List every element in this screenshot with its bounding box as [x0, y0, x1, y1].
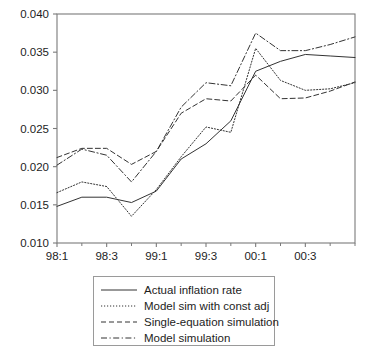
- series-line: [57, 75, 355, 164]
- svg-text:0.030: 0.030: [20, 84, 49, 96]
- plot-frame: [57, 14, 355, 243]
- svg-text:99:1: 99:1: [145, 250, 167, 262]
- legend-item: Model simulation: [94, 330, 274, 346]
- series-line: [57, 48, 355, 216]
- series-line: [57, 33, 355, 182]
- svg-text:0.020: 0.020: [20, 161, 49, 173]
- legend-label-model-sim-with-const-adj: Model sim with const adj: [144, 299, 269, 313]
- svg-text:98:1: 98:1: [46, 250, 68, 262]
- x-axis-tick-labels: 98:198:399:199:300:100:3: [46, 250, 317, 262]
- y-axis-tick-labels: 0.0100.0150.0200.0250.0300.0350.040: [20, 8, 49, 249]
- legend-item: Model sim with const adj: [94, 298, 274, 314]
- y-axis-ticks: [53, 14, 57, 243]
- svg-text:0.040: 0.040: [20, 8, 49, 20]
- svg-text:00:3: 00:3: [294, 250, 316, 262]
- chart-figure: 0.0100.0150.0200.0250.0300.0350.040 98:1…: [0, 0, 367, 352]
- legend-item: Single-equation simulation: [94, 314, 274, 330]
- x-axis-ticks: [57, 243, 355, 247]
- legend-label-model-simulation: Model simulation: [144, 331, 230, 345]
- svg-text:0.015: 0.015: [20, 199, 49, 211]
- data-series-group: [57, 33, 355, 216]
- svg-text:0.025: 0.025: [20, 123, 49, 135]
- svg-text:00:1: 00:1: [244, 250, 266, 262]
- series-line: [57, 54, 355, 206]
- chart-legend: Actual inflation rate Model sim with con…: [93, 276, 275, 346]
- svg-text:98:3: 98:3: [95, 250, 117, 262]
- svg-text:0.010: 0.010: [20, 237, 49, 249]
- legend-swatch-dashdot: [100, 333, 138, 343]
- legend-swatch-solid: [100, 285, 138, 295]
- legend-swatch-dashed: [100, 317, 138, 327]
- svg-text:99:3: 99:3: [195, 250, 217, 262]
- legend-item: Actual inflation rate: [94, 282, 274, 298]
- legend-swatch-dotted: [100, 301, 138, 311]
- legend-label-single-equation-simulation: Single-equation simulation: [144, 315, 279, 329]
- legend-label-actual-inflation-rate: Actual inflation rate: [144, 283, 242, 297]
- svg-text:0.035: 0.035: [20, 46, 49, 58]
